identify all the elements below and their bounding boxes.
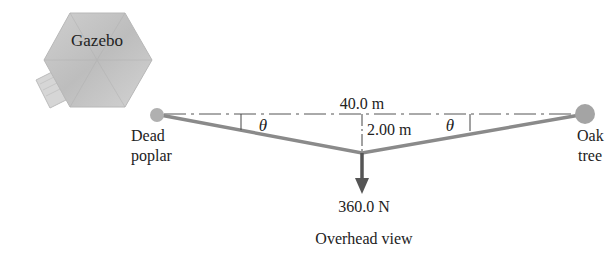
force-arrow-icon — [355, 153, 369, 194]
dead-poplar-icon — [150, 108, 164, 122]
force-label: 360.0 N — [338, 198, 390, 215]
dead-poplar-label-line2: poplar — [131, 147, 173, 165]
caption: Overhead view — [315, 230, 413, 247]
gazebo: Gazebo — [36, 13, 152, 108]
angle-label-left: θ — [259, 116, 267, 135]
oak-tree-icon — [575, 104, 595, 124]
oak-tree-label-line1: Oak — [577, 127, 604, 144]
angle-label-right: θ — [446, 116, 454, 135]
overhead-view-diagram: Gazebo 40.0 m 2.00 m θ θ Dead poplar Oak… — [0, 0, 611, 263]
sag-label: 2.00 m — [367, 121, 412, 138]
dead-poplar-label-line1: Dead — [131, 127, 165, 144]
gazebo-label: Gazebo — [71, 31, 123, 50]
span-label: 40.0 m — [340, 95, 385, 112]
oak-tree-label-line2: tree — [578, 147, 602, 164]
